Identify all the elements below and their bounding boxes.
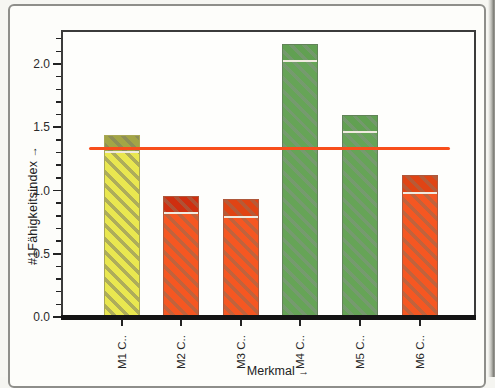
bar-hatch-pattern (224, 200, 258, 317)
y-axis-major-tick (53, 316, 61, 318)
y-tick-label: 0.0 (17, 311, 50, 323)
y-axis-minor-tick (56, 152, 61, 154)
x-axis-label-text: Merkmal (247, 364, 295, 378)
y-tick-label: 2.0 (17, 58, 50, 70)
bar-cap-separator-line (224, 216, 258, 218)
bar-m4 (282, 44, 318, 317)
y-axis-minor-tick (56, 278, 61, 280)
bar-hatch-pattern (164, 197, 198, 317)
y-axis-direction-arrow-icon: → (27, 146, 39, 157)
y-axis-major-tick (53, 253, 61, 255)
bar-cap-separator-line (403, 192, 437, 194)
y-axis-major-tick (53, 190, 61, 192)
x-category-label: M2 C.. (175, 335, 188, 369)
x-axis-tick (240, 320, 242, 326)
bar-cap-separator-line (105, 151, 139, 153)
bar-m6 (402, 175, 438, 317)
photo-edge-shadow (488, 0, 495, 377)
bar-hatch-pattern (343, 116, 377, 317)
y-axis-minor-tick (56, 291, 61, 293)
bar-hatch-pattern (283, 45, 317, 317)
y-axis-minor-tick (56, 215, 61, 217)
y-axis-major-tick (53, 63, 61, 65)
x-axis-baseline (61, 315, 476, 320)
bar-hatch-pattern (403, 176, 437, 317)
plot-area: 0.00.51.01.52.0M1 C..M2 C..M3 C..M4 C..M… (61, 30, 476, 319)
y-axis-minor-tick (56, 51, 61, 53)
bar-cap-separator-line (164, 212, 198, 214)
x-axis-direction-arrow-icon: → (298, 365, 309, 377)
bar-m2 (163, 196, 199, 317)
bar-cap-separator-line (283, 60, 317, 62)
y-axis-minor-tick (56, 240, 61, 242)
x-axis-tick (359, 320, 361, 326)
bar-hatch-pattern (105, 136, 139, 317)
y-axis-minor-tick (56, 228, 61, 230)
y-tick-label: 1.0 (17, 185, 50, 197)
x-axis-tick (299, 320, 301, 326)
x-category-label: M5 C.. (354, 335, 367, 369)
bar-m3 (223, 199, 259, 317)
y-axis-minor-tick (56, 202, 61, 204)
x-axis-tick (180, 320, 182, 326)
x-axis-tick (121, 320, 123, 326)
y-axis-minor-tick (56, 101, 61, 103)
x-category-label: M6 C.. (414, 335, 427, 369)
y-axis-minor-tick (56, 38, 61, 40)
y-axis-minor-tick (56, 266, 61, 268)
bar-m5 (342, 115, 378, 317)
y-axis-minor-tick (56, 164, 61, 166)
bar-cap-separator-line (343, 131, 377, 133)
y-axis-minor-tick (56, 177, 61, 179)
y-axis-minor-tick (56, 139, 61, 141)
y-axis-minor-tick (56, 114, 61, 116)
y-axis-major-tick (53, 126, 61, 128)
reference-line (89, 147, 450, 150)
chart-card: #1Fähigkeitsindex → 0.00.51.01.52.0M1 C.… (8, 4, 486, 388)
x-category-label: M1 C.. (116, 335, 129, 369)
y-axis-minor-tick (56, 89, 61, 91)
y-tick-label: 0.5 (17, 248, 50, 260)
x-axis-label: Merkmal → (223, 364, 333, 378)
x-axis-tick (419, 320, 421, 326)
bar-m1 (104, 135, 140, 317)
y-axis-minor-tick (56, 304, 61, 306)
y-axis-minor-tick (56, 76, 61, 78)
y-tick-label: 1.5 (17, 121, 50, 133)
